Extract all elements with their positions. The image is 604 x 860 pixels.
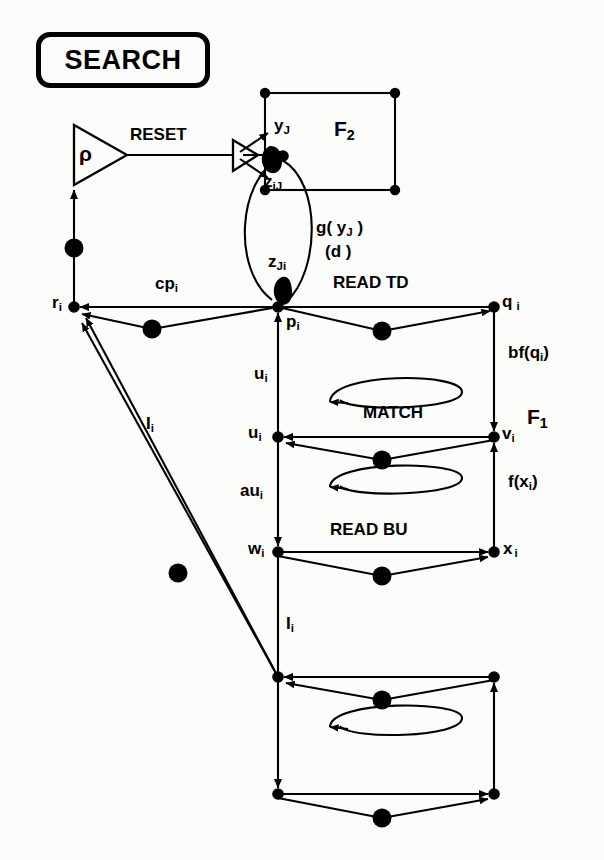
node-bottom1-left: [272, 671, 284, 683]
label-I-i-upper: Ii: [146, 415, 154, 435]
bottom1-v-a: [382, 680, 494, 700]
label-match: MATCH: [363, 404, 423, 421]
label-y-J: yJ: [274, 117, 290, 137]
reset-label: RESET: [130, 126, 187, 143]
search-title-box: SEARCH: [36, 32, 210, 88]
node-bottom2-left: [272, 788, 284, 800]
synapse-dot-bottom2: [373, 809, 392, 828]
label-bf-qi: bf(qi): [508, 344, 549, 364]
ltm-trace-blobs: [262, 146, 292, 305]
label-d-term: (d ): [325, 243, 351, 260]
node-x-i: [488, 546, 500, 558]
label-r-i: ri: [52, 294, 62, 314]
node-bottom2-right: [488, 788, 500, 800]
label-f-xi: f(xi): [508, 473, 538, 493]
synapse-dot-match: [373, 451, 392, 470]
node-w-i: [272, 546, 284, 558]
node-dots-group: [68, 88, 500, 800]
diagram-canvas: SEARCH ρ RESET F2 F1 yJ ziJ zJi g( yJ ) …: [0, 0, 604, 860]
loop-bottom-arc: [330, 705, 462, 735]
label-u-i-node: ui: [248, 424, 262, 444]
loop-bottom-arrow: [330, 727, 348, 729]
label-v-i: vi: [502, 425, 515, 445]
synapse-dot-read-td-left: [143, 320, 162, 339]
label-u-i-upper: ui: [254, 365, 268, 385]
label-z-iJ: ziJ: [264, 173, 282, 193]
label-q-i: qi: [502, 293, 520, 313]
ltm-blob-z-Ji: [274, 277, 292, 305]
synapse-dot-reset-path: [65, 239, 84, 258]
label-cp-i: cpi: [155, 275, 178, 295]
label-read-td: READ TD: [333, 274, 409, 291]
synapse-dot-bottom1: [373, 691, 392, 710]
node-r-i: [68, 301, 80, 313]
f1-field-label: F1: [527, 406, 548, 431]
label-g-yJ: g( yJ ): [316, 219, 363, 239]
bottom2-v-a: [278, 798, 382, 818]
loop-lower-arrow: [330, 487, 348, 489]
read-bu-v-a: [278, 556, 382, 576]
label-x-i: xi: [503, 540, 518, 560]
f2-box: [265, 93, 395, 190]
reset-arrow-1: [240, 133, 268, 152]
read-td-left-v-b: [82, 314, 152, 329]
node-u-i: [272, 431, 284, 443]
label-au-i: aui: [240, 482, 263, 502]
match-v-b: [286, 443, 382, 460]
label-I-i-lower: Ii: [286, 615, 294, 635]
label-read-bu: READ BU: [330, 521, 407, 538]
node-f2-top-left: [260, 88, 270, 98]
node-v-i: [488, 431, 500, 443]
search-title-label: SEARCH: [64, 45, 181, 76]
edges-group: [74, 93, 494, 818]
match-v-a: [382, 440, 494, 460]
label-p-i: pi: [286, 313, 300, 333]
bottom1-v-b: [286, 683, 382, 700]
node-f2-bottom-right: [390, 185, 400, 195]
node-bottom1-right: [488, 671, 500, 683]
synapse-dot-read-bu: [373, 567, 392, 586]
f2-field-label: F2: [334, 118, 355, 143]
node-q-i: [488, 301, 500, 313]
label-z-Ji: zJi: [268, 253, 286, 273]
read-td-right-v-b: [382, 311, 490, 331]
label-w-i: wi: [248, 540, 264, 560]
loop-upper-arrow: [330, 402, 348, 403]
read-td-left-v-a: [152, 307, 278, 329]
loop-lower-arc: [330, 465, 462, 493]
node-f2-top-right: [390, 88, 400, 98]
rho-label: ρ: [79, 143, 92, 164]
read-bu-v-b: [382, 557, 488, 576]
bottom2-v-b: [382, 799, 488, 818]
synapse-dot-read-td-right: [373, 322, 392, 341]
synapse-dot-long-diagonal: [169, 564, 188, 583]
